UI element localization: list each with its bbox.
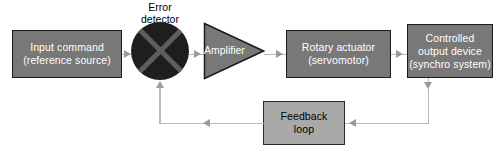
block-controlled-output-device: Controlled output device (synchro system… — [407, 24, 493, 78]
block-error-detector — [131, 22, 189, 80]
block-input-command-line2: (reference source) — [23, 54, 111, 67]
arrowhead-feedback-into-detector — [156, 81, 164, 88]
arrowhead-detector-to-amplifier — [194, 50, 201, 58]
block-rotary-actuator: Rotary actuator (servomotor) — [286, 30, 391, 78]
connector-feedback-to-detector — [159, 123, 264, 125]
block-controlled-output-line2: output device — [418, 45, 482, 58]
arrowhead-amplifier-to-actuator — [276, 50, 283, 58]
arrowhead-output-to-feedback — [349, 119, 356, 127]
block-diagram-canvas: Input command (reference source) Error d… — [0, 0, 501, 159]
block-amplifier-label: Amplifier — [204, 44, 270, 56]
arrowhead-input-to-detector — [124, 50, 131, 58]
block-feedback-loop: Feedback loop — [263, 101, 345, 145]
block-feedback-loop-line1: Feedback — [281, 110, 328, 123]
error-detector-caption-line1: Error — [112, 1, 208, 13]
block-controlled-output-line3: (synchro system) — [409, 58, 491, 71]
block-feedback-loop-line2: loop — [294, 123, 314, 136]
block-input-command: Input command (reference source) — [12, 30, 122, 78]
arrowhead-actuator-to-output — [396, 50, 403, 58]
block-rotary-actuator-line1: Rotary actuator — [302, 41, 375, 54]
block-rotary-actuator-line2: (servomotor) — [308, 54, 369, 67]
arrowhead-feedback-to-detector — [203, 119, 210, 127]
connector-output-to-feedback — [345, 123, 429, 125]
connector-feedback-riser — [159, 84, 161, 123]
arrowhead-output-down-tap — [424, 82, 432, 89]
block-controlled-output-line1: Controlled — [426, 32, 475, 45]
block-input-command-line1: Input command — [30, 41, 104, 54]
